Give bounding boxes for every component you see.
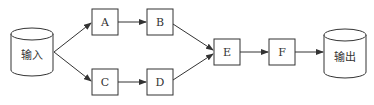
node-b-label: B	[156, 16, 164, 29]
node-c-label: C	[101, 76, 109, 89]
node-f-label: F	[278, 46, 286, 59]
node-e-label: E	[223, 46, 231, 59]
edge-input-c	[54, 52, 91, 81]
dataflow-diagram: 输入 A B C D E F 输出	[0, 0, 374, 105]
node-d-label: D	[156, 76, 165, 89]
output-cylinder: 输出	[324, 29, 366, 78]
output-label: 输出	[334, 50, 356, 64]
node-a-label: A	[100, 16, 110, 29]
node-c: C	[92, 69, 118, 95]
node-e: E	[214, 39, 240, 65]
edge-input-a	[54, 23, 91, 52]
node-f: F	[269, 39, 295, 65]
input-cylinder: 输入	[11, 28, 53, 76]
input-label: 输入	[21, 48, 43, 62]
node-b: B	[147, 9, 173, 35]
edge-d-e	[173, 54, 213, 80]
node-a: A	[92, 9, 118, 35]
node-d: D	[147, 69, 173, 95]
edge-b-e	[173, 24, 213, 50]
